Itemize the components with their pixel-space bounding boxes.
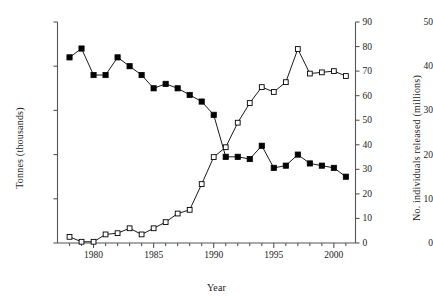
data-series-layer <box>67 46 349 244</box>
chart-figure: Tonnes (thousands) No. individuals relea… <box>0 0 433 296</box>
plot-area <box>0 0 433 296</box>
axis-lines <box>54 22 360 248</box>
